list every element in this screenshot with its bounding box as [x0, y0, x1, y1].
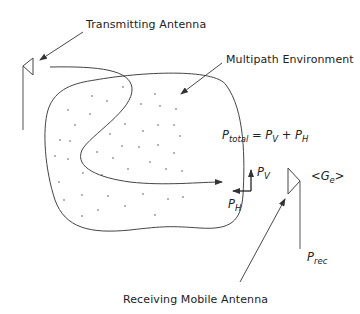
multipath-environment-region: [45, 73, 244, 231]
term2-symbol: P: [295, 128, 302, 142]
vertical-power-symbol: P: [257, 165, 264, 179]
horizontal-power-subscript: H: [235, 203, 241, 213]
effective-gain-label: <Ge>: [311, 169, 344, 185]
polarization-vectors: [233, 170, 251, 191]
diagram-canvas: [0, 0, 360, 314]
lhs-symbol: P: [222, 128, 229, 142]
received-power-symbol: P: [307, 250, 314, 264]
total-power-equation: Ptotal = PV + PH: [222, 128, 308, 144]
transmitting-antenna-label: Transmitting Antenna: [86, 18, 206, 31]
horizontal-power-symbol: P: [228, 197, 235, 211]
receiving-mobile-antenna-label: Receiving Mobile Antenna: [123, 293, 268, 306]
receiving-antenna-pointer: [240, 199, 285, 282]
lhs-subscript: total: [229, 134, 248, 144]
plus-sign: +: [282, 128, 292, 142]
vertical-power-label: PV: [257, 165, 270, 181]
term2-subscript: H: [302, 134, 308, 144]
scatterer-dots: [54, 86, 184, 217]
multipath-environment-label: Multipath Environment: [226, 53, 354, 66]
gain-close-bracket: >: [335, 169, 345, 183]
transmitting-antenna-icon: [23, 58, 33, 130]
horizontal-power-label: PH: [228, 197, 241, 213]
vertical-power-subscript: V: [264, 171, 270, 181]
gain-symbol: G: [321, 169, 330, 183]
received-power-label: Prec: [307, 250, 327, 266]
transmitting-antenna-pointer: [40, 32, 83, 60]
term1-subscript: V: [272, 134, 278, 144]
received-power-subscript: rec: [314, 256, 327, 266]
receiving-antenna-icon: [288, 168, 300, 249]
gain-open-bracket: <: [311, 169, 321, 183]
equals-sign: =: [252, 128, 262, 142]
